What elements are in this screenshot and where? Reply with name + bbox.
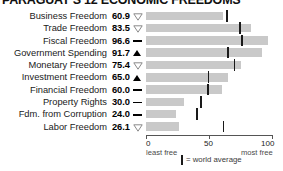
- row-score: 96.6: [108, 35, 130, 47]
- row-label: Business Freedom: [0, 10, 107, 22]
- row-score: 26.1: [108, 121, 130, 133]
- world-average-marker: [208, 71, 210, 83]
- triangle-down-outline-icon: [133, 62, 143, 70]
- row-label: Fdm. from Corruption: [0, 108, 107, 120]
- chart-row: Property Rights30.0: [0, 96, 283, 108]
- row-label: Government Spending: [0, 47, 107, 59]
- chart-row: Trade Freedom83.5: [0, 22, 283, 34]
- world-average-marker: [239, 22, 241, 34]
- row-label: Investment Freedom: [0, 71, 107, 83]
- trend-flat-icon: [133, 35, 143, 47]
- row-score: 30.0: [108, 96, 130, 108]
- value-bar: [146, 48, 262, 57]
- value-bar: [146, 98, 184, 107]
- value-bar: [146, 122, 179, 131]
- world-average-marker: [241, 35, 243, 47]
- row-score: 75.4: [108, 59, 130, 71]
- chart-row: Financial Freedom60.0: [0, 84, 283, 96]
- axis-caption-least-free: least free: [146, 148, 177, 157]
- world-average-legend-icon: [181, 155, 183, 165]
- value-bar: [146, 110, 176, 119]
- chart-row: Government Spending91.7: [0, 47, 283, 59]
- value-bar: [146, 73, 228, 82]
- trend-flat-icon: [133, 108, 143, 120]
- trend-down-icon: [133, 59, 143, 71]
- world-average-marker: [196, 108, 198, 120]
- trend-down-icon: [133, 10, 143, 22]
- chart-row: Monetary Freedom75.4: [0, 59, 283, 71]
- chart-row: Investment Freedom65.0: [0, 71, 283, 83]
- world-average-marker: [207, 84, 209, 96]
- trend-down-icon: [133, 121, 143, 133]
- chart-row: Fdm. from Corruption24.0: [0, 108, 283, 120]
- chart-row: Fiscal Freedom96.6: [0, 35, 283, 47]
- chart-row: Labor Freedom26.1: [0, 121, 283, 133]
- row-label: Labor Freedom: [0, 121, 107, 133]
- axis-caption-most-free: most free: [241, 148, 273, 157]
- triangle-down-outline-icon: [133, 13, 143, 21]
- triangle-up-icon: [133, 75, 141, 81]
- chart-axis: 050100least freemost free: [0, 135, 283, 171]
- triangle-down-outline-icon: [133, 25, 143, 33]
- world-average-marker: [227, 47, 229, 59]
- row-label: Financial Freedom: [0, 84, 107, 96]
- world-average-marker: [234, 59, 236, 71]
- row-score: 83.5: [108, 22, 130, 34]
- trend-down-icon: [133, 22, 143, 34]
- dash-icon: [133, 114, 142, 116]
- value-bar: [146, 36, 268, 45]
- value-bar: [146, 85, 222, 94]
- row-score: 60.0: [108, 84, 130, 96]
- value-bar: [146, 24, 251, 33]
- row-label: Trade Freedom: [0, 22, 107, 34]
- row-score: 91.7: [108, 47, 130, 59]
- world-average-marker: [200, 96, 202, 108]
- triangle-up-icon: [133, 50, 141, 56]
- trend-flat-icon: [133, 84, 143, 96]
- legend-label: = world average: [186, 155, 242, 165]
- row-score: 24.0: [108, 108, 130, 120]
- world-average-marker: [223, 121, 225, 133]
- value-bar: [146, 12, 223, 21]
- world-average-marker: [226, 10, 228, 22]
- row-label: Monetary Freedom: [0, 59, 107, 71]
- chart-rows: Business Freedom60.9Trade Freedom83.5Fis…: [0, 10, 283, 133]
- row-score: 60.9: [108, 10, 130, 22]
- value-bar: [146, 61, 241, 70]
- chart-row: Business Freedom60.9: [0, 10, 283, 22]
- trend-up-icon: [133, 47, 143, 59]
- economic-freedoms-chart: PARAGUAY'S 12 ECONOMIC FREEDOMS Business…: [0, 0, 283, 171]
- row-label: Property Rights: [0, 96, 107, 108]
- axis-tick-label: 50: [204, 139, 213, 149]
- dash-icon: [133, 40, 142, 42]
- chart-title: PARAGUAY'S 12 ECONOMIC FREEDOMS: [2, 0, 281, 7]
- row-score: 65.0: [108, 71, 130, 83]
- trend-up-icon: [133, 71, 143, 83]
- dash-icon: [133, 102, 142, 104]
- row-label: Fiscal Freedom: [0, 35, 107, 47]
- triangle-down-outline-icon: [133, 124, 143, 132]
- dash-icon: [133, 89, 142, 91]
- trend-flat-icon: [133, 96, 143, 108]
